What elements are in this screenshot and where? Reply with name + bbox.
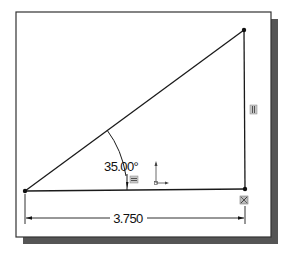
linear-dimension-value[interactable]: 3.750 bbox=[113, 211, 143, 226]
horizontal-relation-icon[interactable] bbox=[130, 176, 138, 183]
vertical-relation-icon[interactable] bbox=[250, 105, 257, 114]
endpoint-left[interactable] bbox=[23, 189, 27, 193]
endpoint-top-right[interactable] bbox=[242, 28, 246, 32]
sketch-frame bbox=[16, 12, 271, 237]
fixed-relation-icon[interactable] bbox=[240, 196, 248, 204]
angle-dimension-value[interactable]: 35.00° bbox=[104, 159, 139, 174]
sketch-canvas: 35.00° 3.750 bbox=[0, 0, 283, 259]
endpoint-bottom-right[interactable] bbox=[243, 187, 247, 191]
